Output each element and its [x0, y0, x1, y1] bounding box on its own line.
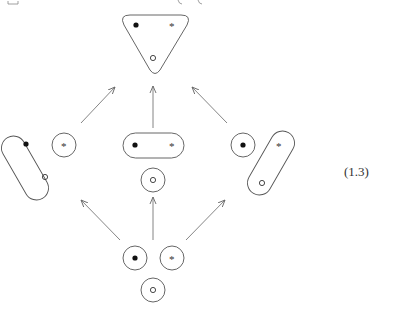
filled-dot-icon	[133, 22, 138, 27]
block-triangle	[122, 15, 188, 74]
node-bottom: *	[123, 246, 184, 302]
arrow-bottom-to-left	[81, 200, 120, 240]
star-icon: *	[169, 253, 175, 265]
filled-dot-icon	[23, 141, 28, 146]
open-circle-icon	[150, 55, 155, 60]
block-pill-slanted	[243, 127, 299, 200]
cropped-text-line	[8, 0, 202, 4]
open-circle-icon	[150, 177, 155, 182]
arrow-right-to-top	[192, 87, 227, 123]
arrow-bottom-to-right	[186, 200, 225, 240]
node-right: *	[231, 127, 299, 200]
singleton-ring	[141, 278, 165, 302]
filled-dot-icon	[132, 142, 137, 147]
filled-dot-icon	[132, 255, 137, 260]
star-icon: *	[61, 140, 67, 152]
open-circle-icon	[150, 287, 155, 292]
star-icon: *	[169, 20, 175, 32]
filled-dot-icon	[240, 142, 245, 147]
star-icon: *	[169, 140, 175, 152]
singleton-ring	[141, 168, 165, 192]
equation-label: (1.3)	[344, 164, 369, 180]
node-center: *	[123, 133, 184, 192]
arrows-lower	[81, 197, 225, 240]
node-top: *	[122, 15, 188, 74]
partition-lattice-diagram: * * * * *	[0, 0, 395, 316]
arrows-upper	[81, 86, 227, 128]
open-circle-icon	[259, 180, 264, 185]
block-pill	[123, 133, 184, 158]
node-left: *	[0, 132, 76, 205]
arrow-left-to-top	[81, 87, 115, 123]
star-icon: *	[276, 140, 282, 152]
